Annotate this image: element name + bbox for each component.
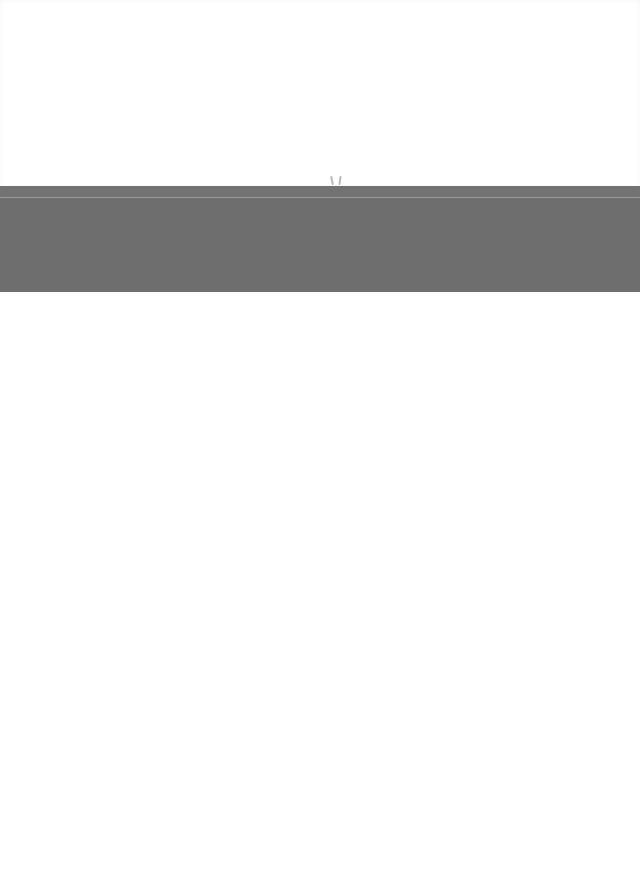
page [0,0,640,881]
banner-top-strip [0,186,640,197]
banner-body [0,198,640,292]
loading-mark-icon [329,176,343,186]
mark-stroke [338,176,341,185]
content-area [0,292,640,881]
gray-banner [0,186,640,292]
mark-stroke [330,176,334,185]
